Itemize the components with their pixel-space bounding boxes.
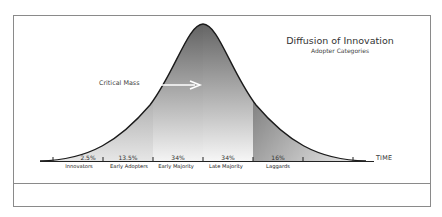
percent-early-majority: 34% <box>153 154 203 161</box>
diagram-title: Diffusion of Innovation <box>280 35 400 46</box>
category-early-majority: Early Majority <box>148 163 204 169</box>
diagram-subtitle: Adopter Categories <box>280 47 400 55</box>
category-innovators: Innovators <box>51 163 107 169</box>
bell-curve-diagram <box>0 0 442 217</box>
percent-late-majority: 34% <box>203 154 253 161</box>
category-laggards: Laggards <box>250 163 306 169</box>
category-late-majority: Late Majority <box>198 163 254 169</box>
critical-mass-label: Critical Mass <box>99 79 139 87</box>
percent-early-adopters: 13.5% <box>103 154 153 161</box>
time-axis-label: TIME <box>376 154 392 162</box>
percent-laggards: 16% <box>253 154 303 161</box>
